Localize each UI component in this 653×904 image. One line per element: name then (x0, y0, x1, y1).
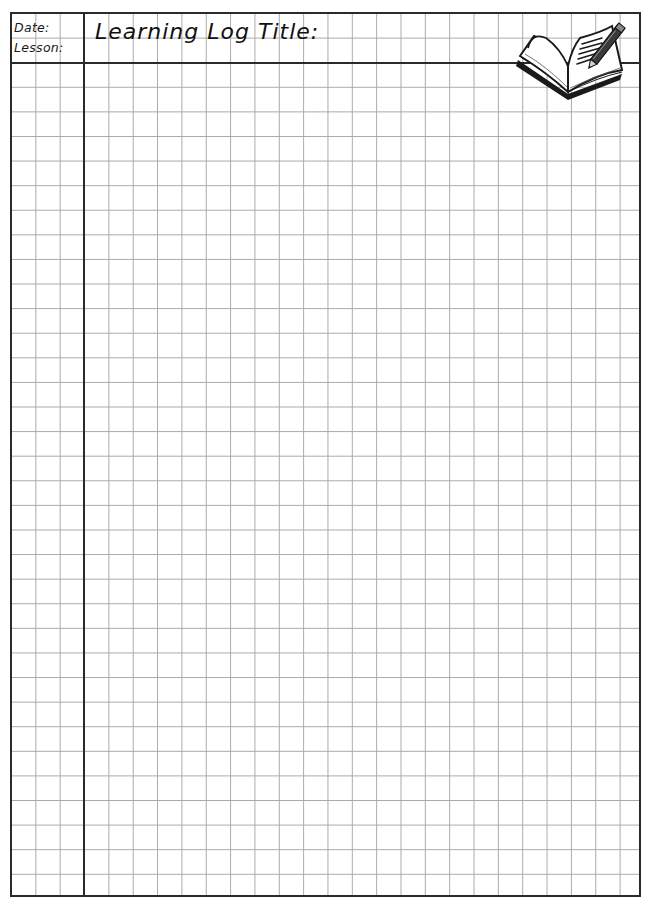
lesson-label: Lesson: (14, 38, 84, 58)
left-margin-divider (83, 14, 85, 895)
learning-log-title: Learning Log Title: (95, 19, 319, 44)
footer-cutoff-text (490, 899, 653, 904)
meta-labels: Date: Lesson: (14, 18, 84, 58)
date-label: Date: (14, 18, 84, 38)
graph-paper-sheet: Date: Lesson: Learning Log Title: (10, 12, 641, 897)
open-book-with-pencil-icon (510, 8, 628, 100)
